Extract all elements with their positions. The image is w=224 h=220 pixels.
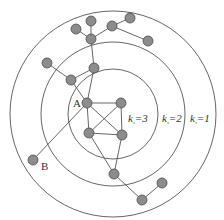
edge — [114, 135, 122, 174]
edges — [33, 18, 162, 200]
node-labels: A B — [41, 97, 81, 172]
node — [137, 195, 147, 205]
label-ks3: ks=3 — [128, 112, 148, 125]
k-shell-diagram: A B ks=3 ks=2 ks=1 — [0, 0, 224, 220]
label-ks2: ks=2 — [162, 112, 182, 125]
label-ks1: ks=1 — [190, 112, 210, 125]
nodes — [28, 13, 167, 205]
node — [157, 178, 167, 188]
node — [66, 75, 76, 85]
node-a — [82, 98, 92, 108]
node — [89, 63, 99, 73]
node — [86, 34, 96, 44]
node — [116, 98, 126, 108]
edge — [112, 26, 148, 41]
edge — [89, 103, 121, 133]
node — [84, 128, 94, 138]
shell-labels: ks=3 ks=2 ks=1 — [128, 112, 210, 125]
node — [125, 13, 135, 23]
label-b: B — [41, 160, 48, 172]
node — [42, 58, 52, 68]
node — [71, 24, 81, 34]
node-b — [28, 155, 38, 165]
node — [117, 130, 127, 140]
label-a: A — [73, 97, 81, 109]
node — [86, 16, 96, 26]
node — [143, 36, 153, 46]
node — [109, 169, 119, 179]
node — [107, 21, 117, 31]
edge — [114, 174, 142, 200]
rings — [10, 11, 216, 217]
edge — [89, 133, 114, 174]
